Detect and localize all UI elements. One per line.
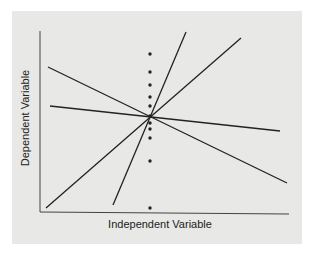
data-point <box>148 136 151 139</box>
data-point <box>148 70 151 73</box>
data-point <box>148 104 151 107</box>
axes <box>40 31 289 214</box>
line-steep-negative <box>48 67 287 183</box>
plot-area <box>0 0 312 253</box>
line-steep-positive <box>113 32 186 205</box>
line-shallow-negative <box>50 106 280 131</box>
data-point <box>148 127 151 130</box>
data-point <box>148 121 151 124</box>
data-points <box>148 52 151 209</box>
data-point <box>148 114 151 117</box>
x-axis-label: Independent Variable <box>0 218 312 230</box>
regression-lines <box>46 32 287 208</box>
x-axis <box>40 212 289 214</box>
data-point <box>148 83 151 86</box>
y-axis-label: Dependent Variable <box>19 70 31 166</box>
data-point <box>148 159 151 162</box>
data-point <box>148 206 151 209</box>
data-point <box>148 95 151 98</box>
data-point <box>148 52 151 55</box>
